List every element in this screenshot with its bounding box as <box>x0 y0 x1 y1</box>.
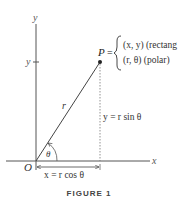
rectangular-coords: (x, y) (rectang <box>123 40 177 51</box>
polar-coords: (r, θ) (polar) <box>123 55 170 66</box>
figure-caption: FIGURE 1 <box>67 189 112 198</box>
x-axis-label: x <box>151 155 157 166</box>
radius-segment <box>36 62 100 161</box>
y-axis-label: y <box>32 12 38 23</box>
point-p <box>98 60 102 64</box>
angle-label: θ <box>46 149 51 159</box>
y-tick-label: y <box>25 56 31 67</box>
origin-label: O <box>24 161 32 173</box>
polar-coordinates-diagram: y y x O r θ P = (x, y) (rectang (r, θ) (… <box>0 0 179 200</box>
brace <box>114 36 121 70</box>
point-p-label: P <box>97 46 105 58</box>
radius-label: r <box>62 100 66 111</box>
vertical-label: y = r sin θ <box>103 112 142 122</box>
horizontal-label: x = r cos θ <box>44 170 84 180</box>
point-equals: = <box>107 47 113 58</box>
